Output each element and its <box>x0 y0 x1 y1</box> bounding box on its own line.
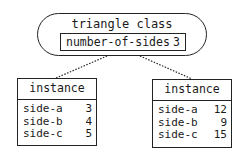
slot-name: side-a <box>23 103 63 116</box>
slot-name: side-c <box>158 129 198 142</box>
instance-node-1: instance side-a 3 side-b 4 side-c 5 <box>17 78 97 146</box>
slot-name: side-c <box>23 128 63 141</box>
slot-row: side-c 5 <box>23 128 92 141</box>
class-title: triangle class <box>38 16 206 32</box>
edge-class-to-instance-2 <box>140 56 192 79</box>
slot-value: 12 <box>214 104 227 117</box>
instance-node-2: instance side-a 12 side-b 9 side-c 15 <box>152 79 232 148</box>
slot-name: side-a <box>158 104 198 117</box>
slot-value: 15 <box>214 129 227 142</box>
attribute-name: number-of-sides <box>66 35 170 49</box>
slot-row: side-a 3 <box>23 103 92 116</box>
slot-value: 3 <box>85 103 92 116</box>
triangle-class-node: triangle class number-of-sides 3 <box>37 13 207 56</box>
slot-value: 5 <box>85 128 92 141</box>
edge-class-to-instance-1 <box>56 56 107 78</box>
instance-title: instance <box>18 79 96 100</box>
class-attribute: number-of-sides 3 <box>60 33 186 51</box>
slot-row: side-a 12 <box>158 104 227 117</box>
instance-title: instance <box>153 80 231 101</box>
attribute-value: 3 <box>173 35 180 49</box>
slot-row: side-c 15 <box>158 129 227 142</box>
